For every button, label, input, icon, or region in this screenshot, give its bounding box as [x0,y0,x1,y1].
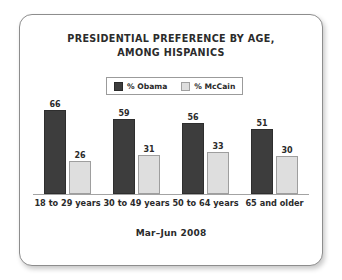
bar-mccain: 26 [69,161,91,194]
bar-group: 5633 [171,105,240,194]
plot-area: 6626593156335130 [33,105,309,195]
chart-legend: % Obama % McCain [106,77,243,95]
category-label: 65 and older [240,198,309,208]
bar-value-label: 59 [118,109,129,118]
category-label: 30 to 49 years [102,198,171,208]
bar-mccain: 31 [138,155,160,194]
obama-swatch-icon [114,82,123,91]
bar-obama: 51 [251,129,273,194]
bar-value-label: 30 [281,146,292,155]
bar-obama: 56 [182,123,204,194]
chart-footer-period: Mar–Jun 2008 [20,228,322,238]
legend-label-mccain: % McCain [194,82,235,91]
bar-mccain: 30 [276,156,298,194]
legend-entry-mccain: % McCain [181,82,235,91]
bar-value-label: 26 [74,151,85,160]
bar-value-label: 31 [143,145,154,154]
bar-obama: 66 [44,110,66,194]
category-label: 18 to 29 years [33,198,102,208]
bar-group: 5130 [240,105,309,194]
bar-mccain: 33 [207,152,229,194]
x-axis-baseline [33,194,309,195]
chart-title: PRESIDENTIAL PREFERENCE BY AGE, AMONG HI… [20,32,322,59]
bar-group: 5931 [102,105,171,194]
mccain-swatch-icon [181,82,190,91]
bar-value-label: 51 [256,119,267,128]
legend-label-obama: % Obama [127,82,167,91]
chart-title-line-2: AMONG HISPANICS [20,46,322,60]
bar-obama: 59 [113,119,135,194]
legend-entry-obama: % Obama [114,82,167,91]
bar-group: 6626 [33,105,102,194]
chart-card: PRESIDENTIAL PREFERENCE BY AGE, AMONG HI… [19,14,323,266]
category-label: 50 to 64 years [171,198,240,208]
category-axis-labels: 18 to 29 years30 to 49 years50 to 64 yea… [33,198,309,212]
bar-value-label: 33 [212,142,223,151]
bar-value-label: 56 [187,113,198,122]
chart-title-line-1: PRESIDENTIAL PREFERENCE BY AGE, [20,32,322,46]
chart-screenshot: PRESIDENTIAL PREFERENCE BY AGE, AMONG HI… [0,0,342,280]
bar-value-label: 66 [49,100,60,109]
